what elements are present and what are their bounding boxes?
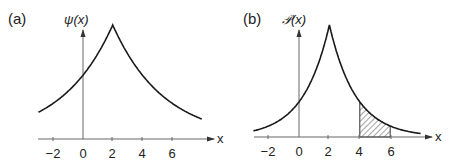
panel-a-curve xyxy=(39,25,202,119)
panel-b-ylabel: 𝒫(x) xyxy=(282,12,306,27)
tick-label: 4 xyxy=(355,144,362,159)
panel-b-xlabel: x xyxy=(435,129,442,144)
tick-label: 0 xyxy=(295,144,302,159)
tick-label: 6 xyxy=(387,144,394,159)
panel-b-ticks: −2 0 2 4 6 xyxy=(261,135,395,159)
panel-b-label: (b) xyxy=(243,10,261,27)
panel-b-curve xyxy=(253,25,420,134)
tick-label: 0 xyxy=(79,146,86,161)
tick-label: −2 xyxy=(261,144,276,159)
tick-label: 2 xyxy=(324,144,331,159)
tick-label: 4 xyxy=(138,146,145,161)
panel-b: (b) 𝒫(x) x −2 0 2 4 6 xyxy=(243,10,442,159)
panel-a: (a) ψ(x) x −2 0 2 4 6 xyxy=(8,10,224,161)
tick-label: 6 xyxy=(168,146,175,161)
panel-a-xlabel: x xyxy=(217,131,224,146)
panel-a-ticks: −2 0 2 4 6 xyxy=(46,137,176,161)
panel-a-label: (a) xyxy=(8,10,26,27)
tick-label: −2 xyxy=(46,146,61,161)
tick-label: 2 xyxy=(108,146,115,161)
figure: (a) ψ(x) x −2 0 2 4 6 (b) 𝒫(x) x xyxy=(0,0,451,164)
panel-a-ylabel: ψ(x) xyxy=(64,12,89,27)
